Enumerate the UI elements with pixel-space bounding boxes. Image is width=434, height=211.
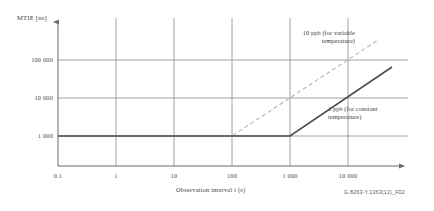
x-axis-title: Observation interval t (s): [176, 186, 245, 193]
x-tick-label-10: 10: [162, 172, 186, 179]
y-axis-title: MTIE [ns]: [17, 14, 47, 21]
annotation-variable-line1: 10 ppb (for variable: [283, 29, 355, 37]
annotation-variable-temperature: 10 ppb (for variable temperature): [283, 29, 355, 45]
x-tick-label-0.1: 0.1: [46, 172, 70, 179]
figure-container: MTIE [ns] Observation interval t (s) 100…: [0, 0, 434, 211]
x-tick-label-10000: 10 000: [330, 172, 366, 179]
series-constant-temperature: [58, 67, 392, 136]
x-tick-label-1000: 1 000: [274, 172, 306, 179]
y-tick-label-1000: 1 000: [8, 132, 53, 139]
annotation-constant-line2: temperature): [328, 113, 408, 121]
grid-lines-horizontal: [58, 60, 408, 136]
x-tick-label-1: 1: [104, 172, 128, 179]
y-tick-label-10000: 10 000: [8, 94, 53, 101]
annotation-variable-line2: temperature): [283, 37, 355, 45]
series-variable-temperature: [58, 40, 378, 136]
figure-tag: G.8263-Y.1363(12)_F02: [344, 189, 405, 195]
annotation-constant-temperature: 1 ppb (for constant temperature): [328, 105, 408, 121]
x-tick-label-100: 100: [220, 172, 244, 179]
y-tick-label-100000: 100 000: [8, 56, 53, 63]
annotation-constant-line1: 1 ppb (for constant: [328, 105, 408, 113]
